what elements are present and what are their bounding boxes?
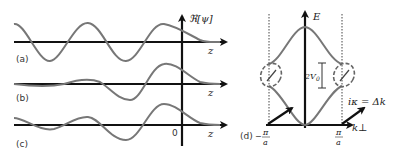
re-psi-label: ℜ[ψ] — [189, 13, 213, 24]
left-tick-num: π — [262, 128, 269, 137]
wave-b — [14, 64, 220, 100]
arrow-label: iκ = Δk — [348, 96, 386, 107]
label-c: (c) — [16, 139, 28, 149]
origin-label: 0 — [172, 128, 178, 138]
gap-label: 2V0 — [304, 72, 320, 82]
z-label-a: z — [207, 45, 214, 56]
gap-ellipse-left — [257, 60, 285, 90]
label-a: (a) — [16, 54, 29, 64]
left-tick-den: a — [263, 138, 268, 147]
energy-label: E — [312, 11, 321, 22]
label-b: (b) — [16, 93, 29, 103]
panel-b — [14, 64, 226, 100]
figure-canvas: (a) (b) (c) z z z 0 ℜ[ψ] E k⊥ 2V0 iκ = Δ… — [0, 0, 402, 163]
k-perp-label: k⊥ — [352, 122, 367, 133]
gap-ellipse-right — [330, 60, 358, 90]
panel-c — [14, 104, 226, 140]
z-label-c: z — [207, 128, 214, 139]
wave-c — [14, 104, 220, 140]
label-d: (d) — [240, 131, 253, 141]
panel-a — [14, 23, 226, 61]
left-tick-sign: − — [255, 132, 262, 141]
panel-d — [257, 12, 364, 128]
right-tick-den: a — [336, 138, 341, 147]
z-label-b: z — [207, 87, 214, 98]
right-tick-num: π — [335, 128, 342, 137]
